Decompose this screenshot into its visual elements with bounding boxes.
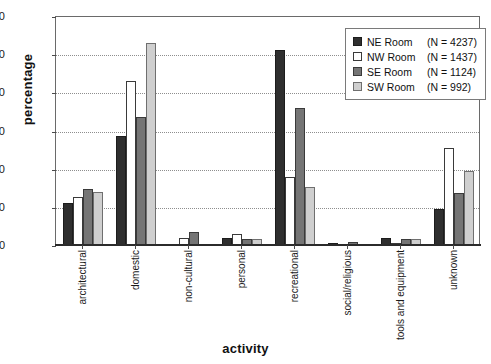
bar <box>454 193 464 245</box>
bar <box>285 177 295 245</box>
bar <box>275 50 285 245</box>
x-axis-tick-mark <box>294 245 295 249</box>
bar <box>434 209 444 245</box>
x-axis-tick-label: personal <box>236 250 247 288</box>
legend-item: NE Room(N = 4237) <box>353 34 477 49</box>
x-axis-tick-mark <box>241 245 242 249</box>
x-axis-tick-mark <box>135 245 136 249</box>
x-axis-tick-label: recreational <box>289 250 300 302</box>
y-axis-tick-mark <box>52 170 56 171</box>
bar <box>444 148 454 245</box>
y-axis-tick-mark <box>52 17 56 18</box>
bar <box>464 171 474 245</box>
legend-series-count: (N = 1437) <box>427 51 477 63</box>
x-axis-title: activity <box>0 341 491 356</box>
x-axis-tick-label: domestic <box>130 250 141 290</box>
legend-series-count: (N = 992) <box>427 81 471 93</box>
y-axis-tick-label: 10 <box>0 201 5 213</box>
bar-group <box>114 17 158 245</box>
x-axis-tick-label: tools and equipment <box>395 250 406 340</box>
bar-group <box>220 17 264 245</box>
bar <box>93 192 103 245</box>
y-axis-tick-label: 40 <box>0 86 5 98</box>
bar <box>73 197 83 245</box>
y-axis-tick-label: 0 <box>0 239 5 251</box>
legend-swatch-icon <box>353 37 362 46</box>
y-axis-tick-mark <box>52 246 56 247</box>
legend-swatch-icon <box>353 82 362 91</box>
y-axis-tick-mark <box>52 93 56 94</box>
y-axis-tick-label: 50 <box>0 48 5 60</box>
bar <box>136 117 146 245</box>
bar-group <box>167 17 211 245</box>
bar-chart: percentage activity NE Room(N = 4237)NW … <box>0 0 491 364</box>
y-axis-tick-mark <box>52 55 56 56</box>
bar <box>63 203 73 245</box>
y-axis-tick-mark <box>52 208 56 209</box>
x-axis-tick-mark <box>400 245 401 249</box>
x-axis-tick-mark <box>82 245 83 249</box>
x-axis-tick-mark <box>188 245 189 249</box>
y-axis-tick-mark <box>52 132 56 133</box>
bar <box>146 43 156 245</box>
legend-series-count: (N = 4237) <box>427 36 477 48</box>
bar <box>305 187 315 245</box>
legend-item: NW Room(N = 1437) <box>353 49 477 64</box>
legend-item: SW Room(N = 992) <box>353 79 477 94</box>
legend-series-name: SE Room <box>367 66 427 78</box>
bar-group <box>273 17 317 245</box>
x-axis-line <box>55 244 481 246</box>
legend: NE Room(N = 4237)NW Room(N = 1437)SE Roo… <box>345 28 486 100</box>
legend-swatch-icon <box>353 67 362 76</box>
y-axis-title: percentage <box>20 25 35 155</box>
bar <box>189 232 199 245</box>
x-axis-tick-mark <box>347 245 348 249</box>
legend-series-name: NE Room <box>367 36 427 48</box>
y-axis-tick-label: 30 <box>0 125 5 137</box>
x-axis-tick-label: non-cultural <box>183 250 194 302</box>
x-axis-tick-mark <box>453 245 454 249</box>
legend-series-name: SW Room <box>367 81 427 93</box>
bar <box>83 189 93 245</box>
x-axis-tick-label: social/religious <box>342 250 353 316</box>
bar-group <box>61 17 105 245</box>
x-axis-tick-label: architectural <box>77 250 88 304</box>
legend-series-name: NW Room <box>367 51 427 63</box>
y-axis-tick-label: 60 <box>0 10 5 22</box>
bar <box>295 108 305 245</box>
y-axis-tick-label: 20 <box>0 163 5 175</box>
legend-swatch-icon <box>353 52 362 61</box>
bar <box>116 136 126 245</box>
bar <box>126 81 136 245</box>
legend-series-count: (N = 1124) <box>427 66 476 78</box>
legend-item: SE Room(N = 1124) <box>353 64 477 79</box>
x-axis-tick-label: unknown <box>448 250 459 290</box>
